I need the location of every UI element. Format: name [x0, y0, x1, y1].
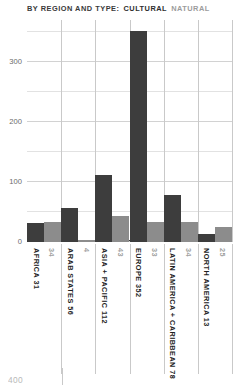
x-axis-label-group: LATIN AMERICA + CARIBBEAN 7834 [164, 244, 198, 374]
x-axis-label-group: EUROPE 35233 [130, 244, 164, 374]
footer-divider [62, 368, 63, 385]
legend-item-natural: NATURAL [171, 4, 210, 13]
plot-area: 0100200300 [27, 20, 232, 242]
x-axis-label-group: ASIA + PACIFIC 11243 [95, 244, 129, 374]
x-axis-label-natural: 43 [116, 248, 125, 257]
group-separator [232, 20, 233, 242]
bar-natural[interactable] [78, 240, 95, 242]
bar-group [130, 20, 164, 242]
footer-clipped-number: 400 [8, 375, 23, 385]
bar-group [27, 20, 61, 242]
x-axis-label-cultural: ASIA + PACIFIC 112 [100, 248, 109, 324]
bar-group [95, 20, 129, 242]
x-axis-label-cultural: NORTH AMERICA 13 [202, 248, 211, 327]
bar-group [198, 20, 232, 242]
x-axis-label-natural: 33 [150, 248, 159, 257]
y-axis-tick-label: 100 [9, 177, 22, 186]
x-axis-label-natural: 25 [218, 248, 227, 257]
bar-cultural[interactable] [27, 223, 44, 242]
x-axis-label-natural: 34 [184, 248, 193, 257]
bar-cultural[interactable] [95, 175, 112, 242]
x-axis-label-cultural: EUROPE 352 [134, 248, 143, 298]
bar-natural[interactable] [44, 222, 61, 242]
page-title: BY REGION AND TYPE: [27, 4, 119, 13]
x-axis-label-natural: 4 [82, 248, 91, 253]
bar-cultural[interactable] [198, 234, 215, 242]
bar-natural[interactable] [181, 222, 198, 242]
bar-cultural[interactable] [164, 195, 181, 242]
bar-cultural[interactable] [61, 208, 78, 242]
chart-container: BY REGION AND TYPE: CULTURAL NATURAL 010… [0, 0, 241, 385]
x-axis-label-area: AFRICA 3134ARAB STATES 564ASIA + PACIFIC… [27, 244, 232, 374]
bar-group [164, 20, 198, 242]
bar-natural[interactable] [147, 222, 164, 242]
x-axis-label-natural: 34 [47, 248, 56, 257]
legend-item-cultural: CULTURAL [123, 4, 167, 13]
bar-natural[interactable] [215, 227, 232, 242]
x-axis-label-cultural: AFRICA 31 [32, 248, 41, 290]
y-axis-tick-label: 200 [9, 117, 22, 126]
x-axis-label-group: NORTH AMERICA 1325 [198, 244, 232, 374]
y-axis-tick-label: 300 [9, 57, 22, 66]
y-axis-tick-label: 0 [18, 237, 22, 246]
chart-title-bar: BY REGION AND TYPE: CULTURAL NATURAL [27, 3, 210, 14]
label-group-separator [232, 244, 233, 374]
x-axis-label-cultural: ARAB STATES 56 [66, 248, 75, 315]
x-axis-label-group: AFRICA 3134 [27, 244, 61, 374]
bar-natural[interactable] [112, 216, 129, 242]
bar-cultural[interactable] [130, 31, 147, 242]
bar-group [61, 20, 95, 242]
x-axis-label-group: ARAB STATES 564 [61, 244, 95, 374]
x-axis-label-cultural: LATIN AMERICA + CARIBBEAN 78 [168, 248, 177, 379]
